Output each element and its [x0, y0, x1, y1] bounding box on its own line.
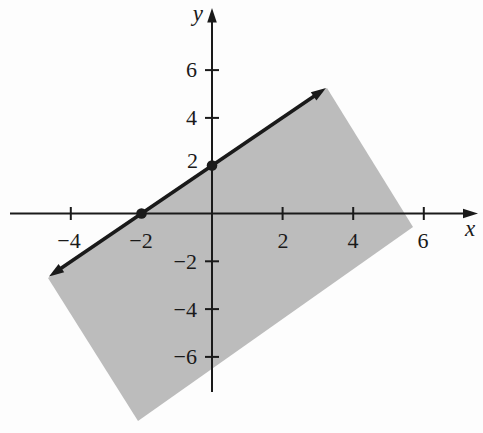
x-tick-label-4: 4 — [348, 228, 359, 253]
x-tick-label-6: 6 — [418, 228, 429, 253]
x-tick-label-neg4: −4 — [57, 228, 80, 253]
shaded-region — [48, 88, 413, 421]
point-neg2-0 — [136, 208, 147, 219]
y-axis-arrowhead-icon — [207, 8, 217, 23]
y-tick-label-2: 2 — [187, 148, 198, 173]
x-tick-label-neg2: −2 — [129, 228, 152, 253]
point-0-2 — [207, 160, 218, 171]
graph-canvas: −4 −2 2 4 6 x 6 4 2 −2 — [0, 0, 483, 433]
x-axis-label: x — [464, 216, 476, 241]
y-axis-label: y — [191, 1, 204, 26]
x-tick-label-2: 2 — [278, 228, 289, 253]
y-tick-label-neg6: −6 — [174, 344, 197, 369]
inequality-graph-figure: −4 −2 2 4 6 x 6 4 2 −2 — [0, 0, 483, 433]
y-tick-label-4: 4 — [186, 105, 197, 130]
y-tick-label-neg4: −4 — [174, 297, 197, 322]
y-tick-label-neg2: −2 — [174, 249, 197, 274]
y-tick-label-6: 6 — [186, 57, 197, 82]
